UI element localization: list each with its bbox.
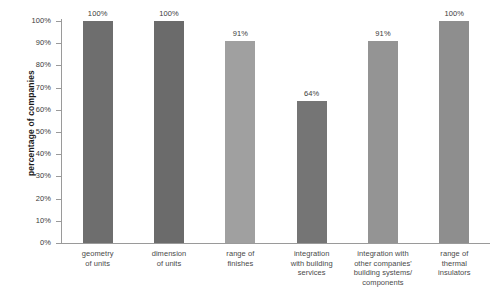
category-label-line: geometry: [62, 249, 133, 259]
category-label-line: building systems/: [347, 268, 418, 278]
y-axis-tick-label: 40%: [11, 149, 51, 158]
y-axis-tick: [56, 243, 62, 244]
x-axis-category-label: geometryof units: [62, 249, 133, 268]
category-label-line: finishes: [205, 259, 276, 269]
y-axis-tick-label: 50%: [11, 127, 51, 136]
y-axis-tick-label: 60%: [11, 105, 51, 114]
x-axis-category-label: integrationwith buildingservices: [276, 249, 347, 278]
y-axis-tick-label: 0%: [11, 238, 51, 247]
category-label-line: range of: [419, 249, 490, 259]
bar-value-label: 100%: [139, 9, 199, 18]
category-label-line: dimension: [133, 249, 204, 259]
x-axis-category-label: range ofthermalinsulators: [419, 249, 490, 278]
bar-value-label: 64%: [282, 89, 342, 98]
y-axis-tick-label: 80%: [11, 60, 51, 69]
bar: [154, 21, 184, 243]
x-axis-line: [62, 243, 490, 244]
bar: [297, 101, 327, 243]
bar-value-label: 91%: [353, 29, 413, 38]
category-label-line: range of: [205, 249, 276, 259]
bar-value-label: 100%: [68, 9, 128, 18]
category-label-line: services: [276, 268, 347, 278]
category-label-line: thermal: [419, 259, 490, 269]
y-axis-tick-label: 20%: [11, 194, 51, 203]
x-axis-category-label: range offinishes: [205, 249, 276, 268]
y-axis-tick-label: 30%: [11, 171, 51, 180]
category-label-line: of units: [133, 259, 204, 269]
bar-value-label: 91%: [210, 29, 270, 38]
bar-chart: percentage of companies 0%10%20%30%40%50…: [0, 0, 497, 302]
bar: [83, 21, 113, 243]
y-axis-tick-label: 100%: [11, 16, 51, 25]
category-label-line: integration with: [347, 249, 418, 259]
y-axis-tick-label: 90%: [11, 38, 51, 47]
category-label-line: other companies': [347, 259, 418, 269]
bar: [225, 41, 255, 243]
category-label-line: components: [347, 278, 418, 288]
bar: [439, 21, 469, 243]
category-label-line: with building: [276, 259, 347, 269]
x-axis-category-label: integration withother companies'building…: [347, 249, 418, 287]
y-axis-tick-label: 10%: [11, 216, 51, 225]
plot-area: [62, 21, 490, 243]
category-label-line: of units: [62, 259, 133, 269]
y-axis-tick-label: 70%: [11, 83, 51, 92]
bar: [368, 41, 398, 243]
bar-value-label: 100%: [424, 9, 484, 18]
x-axis-category-label: dimensionof units: [133, 249, 204, 268]
category-label-line: integration: [276, 249, 347, 259]
category-label-line: insulators: [419, 268, 490, 278]
